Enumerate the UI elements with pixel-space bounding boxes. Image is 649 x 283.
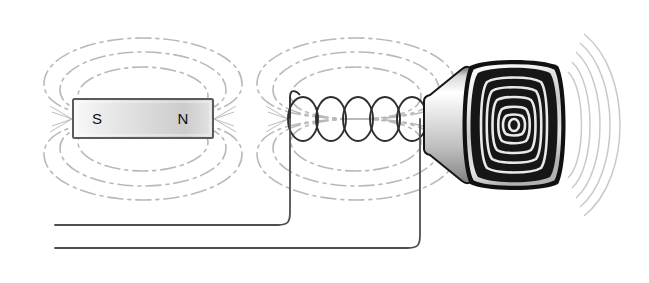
magnet-south-label: S [92, 110, 102, 127]
bar-magnet: S N [73, 99, 213, 138]
sound-arc-3 [576, 52, 600, 198]
speaker-diaphragm [471, 68, 558, 183]
diagram-canvas: S N [0, 0, 649, 283]
loudspeaker [463, 60, 566, 190]
magnet-north-label: N [178, 110, 189, 127]
sound-arc-1 [568, 72, 582, 178]
physics-diagram-svg: S N [0, 0, 649, 283]
sound-waves [568, 34, 620, 216]
sound-arc-4 [580, 43, 610, 207]
